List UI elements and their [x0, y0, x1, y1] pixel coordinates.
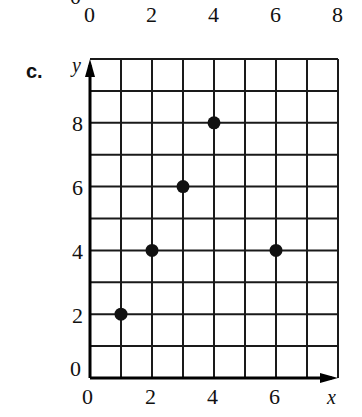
y-axis-arrow-icon — [85, 59, 95, 77]
data-point — [177, 180, 190, 193]
x-tick-label: 0 — [82, 386, 93, 408]
x-tick-label: 4 — [207, 386, 218, 408]
x-axis-label: x — [327, 386, 336, 409]
data-point — [270, 244, 283, 257]
x-axis-arrow-icon — [320, 373, 338, 383]
x-tick-label: 2 — [145, 386, 156, 408]
y-tick-label: 4 — [72, 241, 83, 263]
y-tick-label: 2 — [72, 305, 83, 327]
x-tick-label: 6 — [269, 386, 280, 408]
data-point — [208, 116, 221, 129]
scatter-plot — [0, 0, 362, 417]
y-tick-label: 0 — [70, 358, 81, 380]
y-axis-label: y — [72, 54, 81, 77]
y-tick-label: 8 — [72, 113, 83, 135]
data-point — [115, 308, 128, 321]
data-point — [146, 244, 159, 257]
y-tick-label: 6 — [72, 177, 83, 199]
